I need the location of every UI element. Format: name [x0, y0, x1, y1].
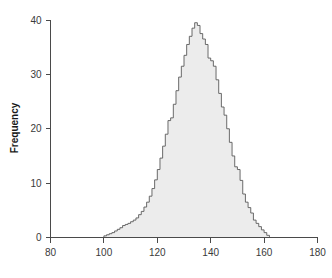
y-axis-tick-label: 30 — [30, 69, 42, 80]
x-axis-tick-label: 140 — [202, 247, 219, 258]
x-axis-tick-label: 100 — [96, 247, 113, 258]
x-axis-tick-label: 180 — [309, 247, 326, 258]
histogram-area — [104, 23, 270, 238]
x-axis-tick-label: 80 — [45, 247, 57, 258]
y-axis-ticks: 010203040 — [30, 15, 50, 244]
y-axis-tick-label: 20 — [30, 123, 42, 134]
y-axis-tick-label: 10 — [30, 178, 42, 189]
histogram-chart: 80100120140160180 010203040 Frequency — [0, 0, 332, 278]
y-axis-tick-label: 0 — [36, 232, 42, 243]
histogram-series — [104, 23, 270, 238]
x-axis-tick-label: 120 — [149, 247, 166, 258]
chart-canvas: 80100120140160180 010203040 Frequency — [0, 0, 332, 278]
x-axis-tick-label: 160 — [256, 247, 273, 258]
x-axis-ticks: 80100120140160180 — [45, 238, 326, 258]
y-axis-title: Frequency — [9, 102, 20, 153]
y-axis-tick-label: 40 — [30, 15, 42, 26]
